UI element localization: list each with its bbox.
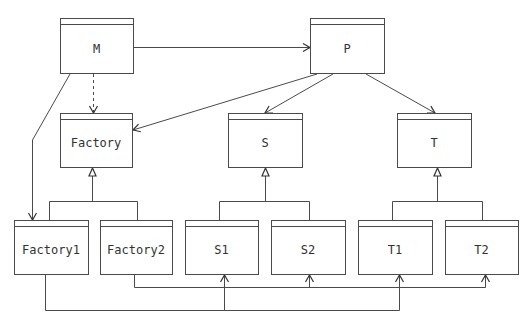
edge-t-inheritance-stem <box>434 168 441 202</box>
open-arrowhead-icon <box>90 106 98 113</box>
class-box-p[interactable]: P <box>311 19 385 74</box>
edge-line <box>46 275 400 311</box>
class-name-label: Factory <box>71 136 122 150</box>
class-box-t[interactable]: T <box>398 114 472 168</box>
class-name-label: S <box>261 136 268 150</box>
inheritance-arrowhead-icon <box>262 168 269 176</box>
class-box-s[interactable]: S <box>229 114 303 168</box>
class-box-factory[interactable]: Factory <box>61 114 133 168</box>
edge-m-to-factory-dependency <box>90 74 98 113</box>
class-name-label: S2 <box>301 243 315 257</box>
class-box-factory1[interactable]: Factory1 <box>15 221 89 275</box>
edge-factory2-bus <box>135 275 490 288</box>
class-name-label: M <box>93 42 100 56</box>
edge-factory-inheritance-stem <box>89 168 96 202</box>
class-name-label: Factory1 <box>22 243 80 257</box>
class-box-s1[interactable]: S1 <box>186 221 259 275</box>
class-name-label: T <box>430 136 437 150</box>
edge-p-to-t <box>366 74 435 113</box>
class-box-m[interactable]: M <box>61 19 134 74</box>
class-name-label: P <box>343 42 350 56</box>
edge-m-to-p <box>133 44 310 52</box>
class-box-factory2[interactable]: Factory2 <box>101 221 173 275</box>
class-box-t1[interactable]: T1 <box>359 221 433 275</box>
inheritance-arrowhead-icon <box>89 168 96 176</box>
edge-factory1-to-s1 <box>221 275 229 311</box>
class-diagram: MPFactorySTFactory1Factory2S1S2T1T2 <box>0 0 532 324</box>
class-name-label: T1 <box>388 243 402 257</box>
inheritance-arrowhead-icon <box>434 168 441 176</box>
class-name-label: T2 <box>474 243 488 257</box>
classes-layer: MPFactorySTFactory1Factory2S1S2T1T2 <box>15 19 519 275</box>
class-name-label: Factory2 <box>107 243 165 257</box>
class-box-s2[interactable]: S2 <box>272 221 346 275</box>
edge-line <box>366 74 435 113</box>
edge-factory2-to-s2 <box>306 275 314 288</box>
class-box-t2[interactable]: T2 <box>446 221 519 275</box>
edge-s-inheritance-stem <box>262 168 269 202</box>
class-name-label: S1 <box>214 243 228 257</box>
